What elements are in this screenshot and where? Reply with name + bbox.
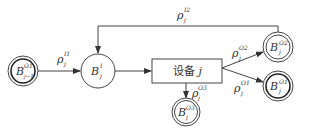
node-b-o3: B O3 j [172, 98, 200, 126]
edge-o2-feedback-to-input [98, 26, 278, 53]
node-label-base: B [90, 65, 99, 78]
node-b-o1: B O1 j [263, 71, 293, 101]
svg-text:O1: O1 [241, 79, 250, 86]
node-label-base: B [15, 65, 24, 78]
node-label-sup: O1 [279, 78, 288, 85]
svg-text:ρ: ρ [233, 82, 241, 95]
svg-text:I1: I1 [63, 50, 70, 57]
node-label-sup: O3 [186, 104, 195, 111]
device-box: 设备 j [152, 59, 222, 83]
device-label: 设备 j [173, 64, 203, 78]
node-b-input: B I j [81, 54, 115, 88]
svg-text:O3: O3 [198, 84, 207, 91]
node-label-sup: O2 [279, 39, 288, 46]
svg-text:I2: I2 [183, 6, 190, 13]
svg-text:ρ: ρ [176, 9, 184, 22]
node-b-prev-o1: B O1 j−1 [8, 56, 38, 86]
edge-device-to-o2 [222, 52, 263, 68]
node-label-base: B [177, 106, 186, 119]
node-label-base: B [269, 41, 278, 54]
flow-diagram: B O1 j−1 B I j 设备 j B O3 j B O2 j B O1 [0, 0, 309, 139]
node-label-base: B [269, 80, 278, 93]
svg-text:O2: O2 [239, 44, 248, 51]
node-b-o2: B O2 j [263, 32, 293, 62]
edge-label-i1: ρ I1 j [56, 50, 70, 68]
edge-label-o1: ρ O1 j [233, 79, 250, 97]
svg-text:ρ: ρ [231, 47, 239, 60]
edge-label-i2: ρ I2 j [176, 6, 190, 24]
edge-label-o3: ρ O3 j [191, 84, 207, 102]
node-label-sub: j−1 [23, 73, 34, 80]
node-label-sup: O1 [24, 62, 33, 69]
svg-text:ρ: ρ [56, 53, 64, 66]
